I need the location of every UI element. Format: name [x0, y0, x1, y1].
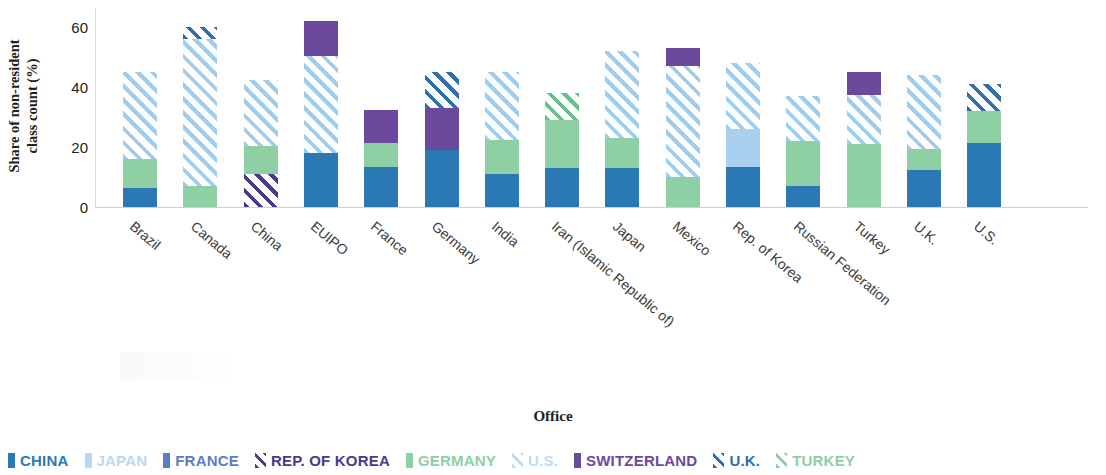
bar-segment-us[interactable]	[786, 96, 820, 141]
legend-item-china[interactable]: CHINA	[8, 452, 69, 469]
bar-group[interactable]	[847, 0, 881, 207]
x-tick-label: Germany	[428, 218, 482, 267]
bar-segment-germany[interactable]	[666, 177, 700, 207]
bar-segment-china[interactable]	[967, 143, 1001, 208]
x-tick-label: Turkey	[851, 218, 894, 257]
bar-segment-china[interactable]	[726, 167, 760, 208]
bar-segment-china[interactable]	[123, 188, 157, 208]
bar-segment-germany[interactable]	[847, 144, 881, 207]
legend-swatch-turkey-icon	[776, 453, 787, 468]
bar-segment-us[interactable]	[726, 63, 760, 129]
bar-segment-china[interactable]	[304, 153, 338, 207]
legend-item-korea[interactable]: REP. OF KOREA	[255, 452, 390, 469]
bar-segment-uk[interactable]	[425, 72, 459, 108]
bar-segment-china[interactable]	[485, 174, 519, 207]
x-tick-label: India	[489, 218, 523, 250]
bar-segment-germany[interactable]	[786, 141, 820, 186]
bar-group[interactable]	[726, 0, 760, 207]
plot-area	[0, 0, 1106, 207]
bar-segment-korea[interactable]	[244, 174, 278, 207]
legend-label: JAPAN	[97, 452, 148, 469]
bar-segment-us[interactable]	[666, 66, 700, 177]
bar-segment-germany[interactable]	[545, 120, 579, 168]
bar-segment-japan[interactable]	[726, 129, 760, 167]
x-tick-label: France	[368, 218, 412, 258]
legend-item-turkey[interactable]: TURKEY	[776, 452, 855, 469]
bar-segment-us[interactable]	[907, 75, 941, 149]
legend-swatch-germany-icon	[406, 453, 413, 468]
chart-legend: CHINAJAPANFRANCEREP. OF KOREAGERMANYU.S.…	[8, 449, 1098, 471]
bar-group[interactable]	[666, 0, 700, 207]
bar-segment-switzerland[interactable]	[304, 21, 338, 56]
bar-group[interactable]	[364, 0, 398, 207]
bar-segment-china[interactable]	[907, 170, 941, 208]
bar-segment-switzerland[interactable]	[364, 110, 398, 143]
legend-item-germany[interactable]: GERMANY	[406, 452, 496, 469]
bar-group[interactable]	[545, 0, 579, 207]
legend-item-uk[interactable]: U.K.	[713, 452, 760, 469]
bar-segment-china[interactable]	[425, 150, 459, 207]
legend-label: U.K.	[729, 452, 760, 469]
bar-segment-china[interactable]	[545, 168, 579, 207]
bar-segment-germany[interactable]	[967, 111, 1001, 143]
bar-segment-uk[interactable]	[183, 27, 217, 39]
bar-segment-germany[interactable]	[364, 143, 398, 167]
legend-swatch-us-icon	[512, 453, 523, 468]
x-tick-label: Iran (Islamic Republic of)	[549, 218, 678, 330]
bar-segment-us[interactable]	[847, 95, 881, 145]
x-axis-tick-labels: BrazilCanadaChinaEUIPOFranceGermanyIndia…	[0, 208, 1106, 328]
legend-swatch-china-icon	[8, 453, 15, 468]
legend-label: REP. OF KOREA	[271, 452, 390, 469]
bar-segment-china[interactable]	[786, 186, 820, 207]
bar-segment-uk[interactable]	[967, 84, 1001, 111]
x-tick-label: China	[248, 218, 286, 254]
legend-label: TURKEY	[792, 452, 855, 469]
bar-segment-us[interactable]	[183, 39, 217, 186]
x-tick-label: Mexico	[670, 218, 714, 259]
bar-group[interactable]	[425, 0, 459, 207]
bar-group[interactable]	[123, 0, 157, 207]
bar-segment-us[interactable]	[244, 80, 278, 146]
legend-label: U.S.	[528, 452, 558, 469]
legend-label: SWITZERLAND	[586, 452, 697, 469]
legend-item-japan[interactable]: JAPAN	[85, 452, 148, 469]
bar-segment-germany[interactable]	[485, 140, 519, 175]
bar-segment-germany[interactable]	[123, 159, 157, 188]
x-tick-label: Canada	[187, 218, 235, 262]
bar-segment-switzerland[interactable]	[425, 108, 459, 150]
x-tick-label: U.K.	[911, 218, 942, 248]
bar-segment-germany[interactable]	[907, 149, 941, 170]
bar-segment-us[interactable]	[123, 72, 157, 159]
bar-group[interactable]	[605, 0, 639, 207]
bar-group[interactable]	[183, 0, 217, 207]
legend-label: CHINA	[20, 452, 69, 469]
bar-segment-germany[interactable]	[183, 186, 217, 207]
x-tick-label: Japan	[609, 218, 649, 255]
legend-item-france[interactable]: FRANCE	[163, 452, 239, 469]
bar-segment-us[interactable]	[605, 51, 639, 138]
bar-group[interactable]	[907, 0, 941, 207]
legend-label: GERMANY	[418, 452, 496, 469]
bar-segment-china[interactable]	[605, 168, 639, 207]
legend-swatch-uk-icon	[713, 453, 724, 468]
bar-segment-us[interactable]	[304, 56, 338, 154]
legend-item-us[interactable]: U.S.	[512, 452, 558, 469]
bar-group[interactable]	[786, 0, 820, 207]
bar-group[interactable]	[485, 0, 519, 207]
bar-group[interactable]	[967, 0, 1001, 207]
legend-item-switzerland[interactable]: SWITZERLAND	[574, 452, 697, 469]
bar-segment-germany[interactable]	[605, 138, 639, 168]
bar-segment-switzerland[interactable]	[666, 48, 700, 66]
legend-swatch-france-icon	[163, 453, 170, 468]
x-tick-label: EUIPO	[308, 218, 352, 258]
bar-group[interactable]	[244, 0, 278, 207]
scan-artifact	[120, 352, 240, 380]
legend-label: FRANCE	[175, 452, 239, 469]
bar-segment-us[interactable]	[485, 72, 519, 140]
bar-segment-turkey[interactable]	[545, 93, 579, 120]
bar-segment-switzerland[interactable]	[847, 72, 881, 95]
bar-segment-germany[interactable]	[244, 146, 278, 175]
bar-group[interactable]	[304, 0, 338, 207]
bar-segment-china[interactable]	[364, 167, 398, 208]
legend-swatch-japan-icon	[85, 453, 92, 468]
